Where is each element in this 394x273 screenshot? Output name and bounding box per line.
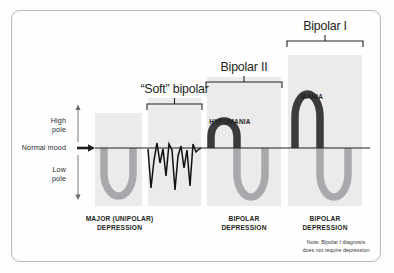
axis-label-low-pole-line1: Low (16, 166, 66, 174)
axis-label-low-pole-line2: pole (16, 175, 66, 183)
mood-spectrum-figure: High pole Normal mood Low pole “Soft” bi… (0, 0, 394, 273)
episode-label-hypomania: HYPOMANIA (199, 118, 261, 125)
axis-label-high-pole-line2: pole (16, 126, 66, 134)
up-arrow-icon (75, 105, 80, 143)
right-arrow-icon (77, 144, 95, 152)
note-line2: does not require depression (288, 246, 384, 254)
panel-label-bipolar-i-line2: DEPRESSION (288, 223, 362, 233)
panel-label-bipolar-ii-line2: DEPRESSION (207, 223, 281, 233)
bracket-label-bipolar-i: Bipolar I (280, 20, 370, 34)
panel-label-major-unipolar-depression-line2: DEPRESSION (62, 223, 177, 233)
bracket-bipolar-i (287, 35, 363, 47)
bracket-label-bipolar-ii: Bipolar II (199, 61, 289, 75)
axis-label-normal-mood: Normal mood (4, 144, 66, 152)
bracket-label-soft-bipolar: “Soft” bipolar (129, 83, 220, 97)
down-arrow-icon (75, 155, 80, 200)
axis-label-high-pole-line1: High (16, 117, 66, 125)
note-line1: Note: Bipolar I diagnosis (288, 238, 384, 246)
episode-label-mania: MANIA (281, 93, 343, 100)
